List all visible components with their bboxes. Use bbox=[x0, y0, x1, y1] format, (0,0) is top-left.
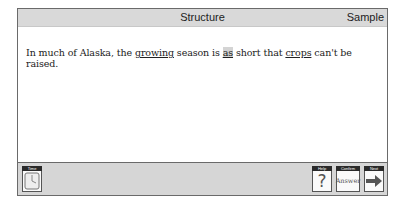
option-c-crops[interactable]: crops bbox=[285, 47, 311, 58]
answer-label: Answer bbox=[336, 177, 361, 185]
option-a-growing[interactable]: growing bbox=[135, 47, 174, 58]
sentence-segment: short that bbox=[233, 47, 285, 58]
sentence-segment: season is bbox=[174, 47, 223, 58]
mode-label: Sample bbox=[347, 11, 384, 23]
bottom-toolbar: Time Help ? Confirm Answer Next bbox=[18, 162, 387, 195]
right-arrow-icon bbox=[364, 171, 384, 192]
question-mark-icon: ? bbox=[317, 173, 326, 190]
clock-icon bbox=[22, 171, 42, 192]
next-button[interactable]: Next bbox=[364, 166, 384, 192]
help-button[interactable]: Help ? bbox=[312, 166, 332, 192]
time-button[interactable]: Time bbox=[22, 166, 42, 192]
sentence-segment: In much of Alaska, the bbox=[26, 47, 135, 58]
test-window: Structure Sample In much of Alaska, the … bbox=[17, 8, 388, 196]
option-b-as-selected[interactable]: as bbox=[223, 47, 233, 58]
confirm-answer-button[interactable]: Confirm Answer bbox=[336, 166, 360, 192]
title-bar: Structure Sample bbox=[18, 9, 387, 27]
section-title: Structure bbox=[18, 11, 387, 23]
question-text: In much of Alaska, the growing season is… bbox=[26, 47, 379, 69]
